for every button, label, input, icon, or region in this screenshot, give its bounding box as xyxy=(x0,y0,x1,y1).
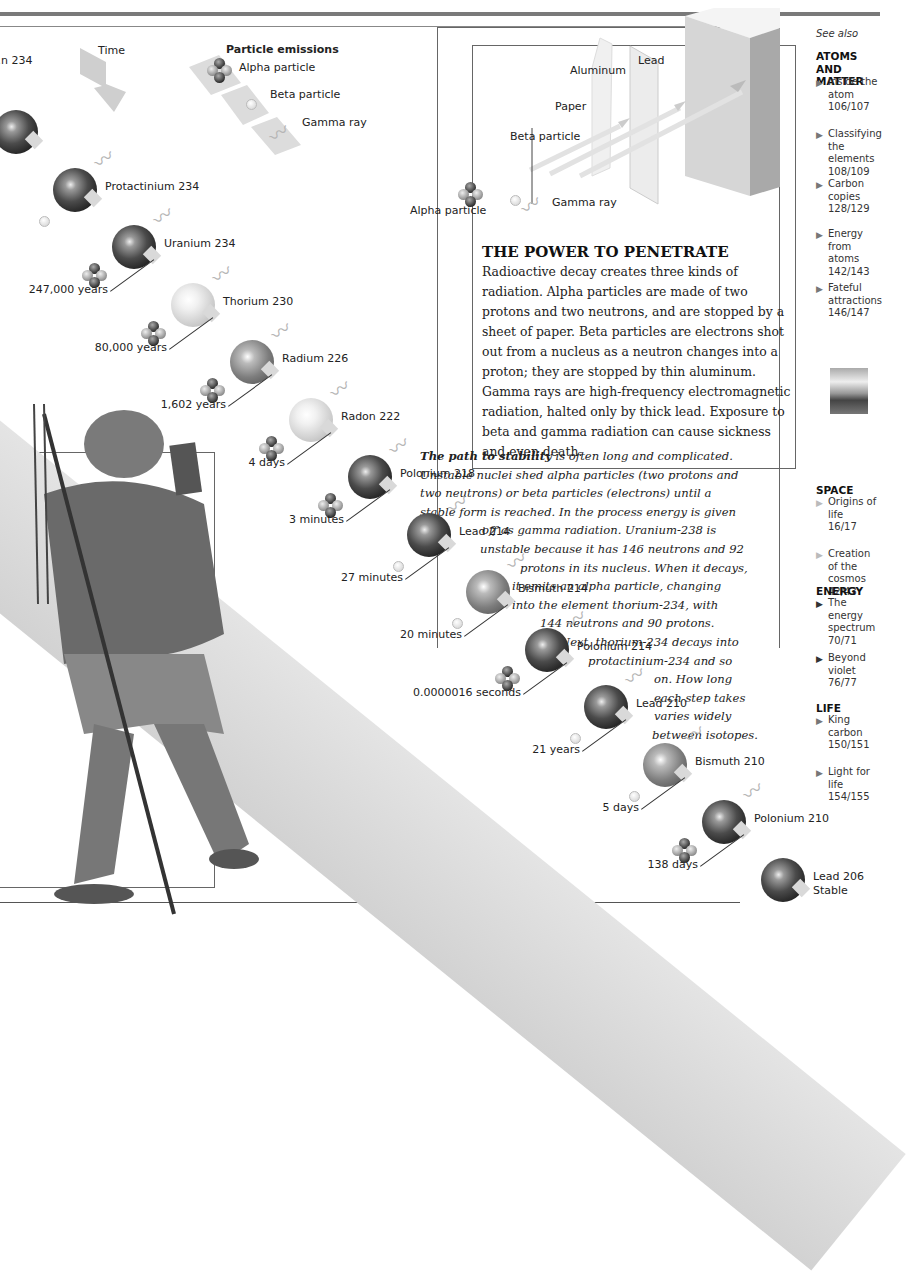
isotope-label: Lead 206 xyxy=(813,870,864,883)
isotope-label: Radon 222 xyxy=(341,410,400,423)
nucleus-notch xyxy=(792,878,810,896)
gamma-ray-icon: 〰 xyxy=(204,255,237,290)
gamma-ray-icon: 〰 xyxy=(86,140,119,175)
half-life-label: 0.0000016 seconds xyxy=(413,686,521,699)
isotope-label: Bismuth 210 xyxy=(695,755,765,768)
isotope-label: Polonium 214 xyxy=(577,640,652,653)
see-also-link-label[interactable]: Carbon copies xyxy=(828,178,864,202)
see-also-link[interactable]: ▶Inside the atom106/107 xyxy=(816,76,880,114)
play-triangle-icon: ▶ xyxy=(816,229,823,242)
isotope-label: Polonium 218 xyxy=(400,467,475,480)
isotope-label: Radium 226 xyxy=(282,352,348,365)
see-also-link-label[interactable]: Beyond violet xyxy=(828,652,866,676)
stability-text-line: The path to stability is often long and … xyxy=(420,447,733,466)
section-body: Radioactive decay creates three kinds of… xyxy=(482,262,792,462)
isotope-label: Protactinium 234 xyxy=(105,180,199,193)
see-also-link-label[interactable]: The energy spectrum xyxy=(828,597,875,633)
play-triangle-icon: ▶ xyxy=(816,653,823,666)
see-also-group-heading: SPACE xyxy=(816,484,880,497)
half-life-label: 80,000 years xyxy=(95,341,167,354)
see-also-link-label[interactable]: Classifying the elements xyxy=(828,128,882,164)
play-triangle-icon: ▶ xyxy=(816,767,823,780)
see-also-link-label[interactable]: Inside the atom xyxy=(828,76,877,100)
see-also-link-label[interactable]: Fateful attractions xyxy=(828,282,882,306)
see-also-link-label[interactable]: Origins of life xyxy=(828,496,876,520)
archer-illustration xyxy=(4,404,264,918)
nucleus-notch xyxy=(25,131,43,149)
stability-text-line: on. How long xyxy=(654,670,732,689)
gamma-ray-icon: 〰 xyxy=(381,428,414,463)
play-triangle-icon: ▶ xyxy=(816,179,823,192)
play-triangle-icon: ▶ xyxy=(816,283,823,296)
gamma-ray-icon: 〰 xyxy=(322,370,355,405)
see-also-link[interactable]: ▶The energy spectrum70/71 xyxy=(816,597,880,647)
see-also-link[interactable]: ▶Light for life154/155 xyxy=(816,766,880,804)
half-life-label: 5 days xyxy=(603,801,639,814)
gamma-ray-icon: 〰 xyxy=(263,313,296,348)
see-also-link-label[interactable]: Energy from atoms xyxy=(828,228,863,264)
see-also-page-numbers: 108/109 xyxy=(828,166,870,177)
play-triangle-icon: ▶ xyxy=(816,598,823,611)
half-life-label: 3 minutes xyxy=(289,513,344,526)
see-also-link-label[interactable]: Light for life xyxy=(828,766,870,790)
see-also-link[interactable]: ▶Origins of life16/17 xyxy=(816,496,880,534)
see-also-link-label[interactable]: King carbon xyxy=(828,714,863,738)
half-life-label: 20 minutes xyxy=(400,628,462,641)
see-also-page-numbers: 146/147 xyxy=(828,307,870,318)
beta-particle-legend-icon xyxy=(246,99,257,110)
stability-text-fragment: is often long and complicated. xyxy=(552,449,733,463)
time-label: Time xyxy=(98,44,125,57)
gamma-legend-label: Gamma ray xyxy=(302,116,367,129)
see-also-page-numbers: 128/129 xyxy=(828,203,870,214)
section-heading: THE POWER TO PENETRATE xyxy=(482,243,729,261)
half-life-label: 247,000 years xyxy=(29,283,108,296)
stability-text-line: into the element thorium-234, with xyxy=(512,596,718,615)
paper-label: Paper xyxy=(555,100,586,113)
stability-text-line: off as gamma radiation. Uranium-238 is xyxy=(482,521,716,540)
lead-label: Lead xyxy=(638,54,664,67)
see-also-link[interactable]: ▶Classifying the elements108/109 xyxy=(816,128,880,178)
see-also-link[interactable]: ▶Carbon copies128/129 xyxy=(816,178,880,216)
penetration-diagram xyxy=(480,8,780,208)
isotope-label: Bismuth 214 xyxy=(518,582,588,595)
see-also-page-numbers: 142/143 xyxy=(828,266,870,277)
half-life-label: 138 days xyxy=(648,858,698,871)
see-also-link[interactable]: ▶King carbon150/151 xyxy=(816,714,880,752)
play-triangle-icon: ▶ xyxy=(816,549,823,562)
see-also-page-numbers: 150/151 xyxy=(828,739,870,750)
see-also-title: See also xyxy=(816,28,858,41)
see-also-link[interactable]: ▶Beyond violet76/77 xyxy=(816,652,880,690)
mushroom-cloud-thumbnail xyxy=(830,368,868,414)
alpha-particle-legend-icon xyxy=(207,58,233,84)
play-triangle-icon: ▶ xyxy=(816,77,823,90)
nucleus-sphere xyxy=(53,168,97,212)
see-also-link[interactable]: ▶Energy from atoms142/143 xyxy=(816,228,880,278)
half-life-label: 21 years xyxy=(532,743,580,756)
beta-particle-label: Beta particle xyxy=(510,130,580,143)
see-also-page-numbers: 70/71 xyxy=(828,635,857,646)
see-also-page-numbers: 154/155 xyxy=(828,791,870,802)
see-also-link[interactable]: ▶Fateful attractions146/147 xyxy=(816,282,880,320)
isotope-label: Thorium 230 xyxy=(223,295,293,308)
see-also-page-numbers: 106/107 xyxy=(828,101,870,112)
gamma-ray-icon: 〰 xyxy=(145,198,178,233)
isotope-label: Polonium 210 xyxy=(754,812,829,825)
nucleus-sphere xyxy=(761,858,805,902)
half-life-label: 27 minutes xyxy=(341,571,403,584)
nucleus-notch xyxy=(84,188,102,206)
play-triangle-icon: ▶ xyxy=(816,129,823,142)
stability-text-line: protons in its nucleus. When it decays, xyxy=(520,559,748,578)
aluminum-label: Aluminum xyxy=(570,64,626,77)
isotope-label: Uranium 234 xyxy=(164,237,236,250)
isotope-label: Lead 214 xyxy=(459,525,510,538)
beta-legend-label: Beta particle xyxy=(270,88,340,101)
see-also-page-numbers: 16/17 xyxy=(828,521,857,532)
see-also-group-heading: ENERGY xyxy=(816,585,880,598)
see-also-group-heading: LIFE xyxy=(816,702,880,715)
isotope-stability-label: Stable xyxy=(813,884,848,897)
play-triangle-icon: ▶ xyxy=(816,497,823,510)
nucleus-sphere xyxy=(0,110,38,154)
stability-text-line: protactinium-234 and so xyxy=(588,652,732,671)
see-also-link-label[interactable]: Creation of the cosmos xyxy=(828,548,870,584)
gamma-ray-icon: 〰 xyxy=(735,773,768,808)
